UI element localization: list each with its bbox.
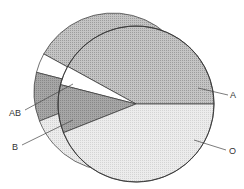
pie-chart: A O AB B <box>0 0 244 189</box>
label-o: O <box>229 146 236 156</box>
pie-front-face <box>58 26 214 182</box>
label-b: B <box>12 142 18 152</box>
label-ab: AB <box>9 108 21 118</box>
label-a: A <box>230 90 236 100</box>
